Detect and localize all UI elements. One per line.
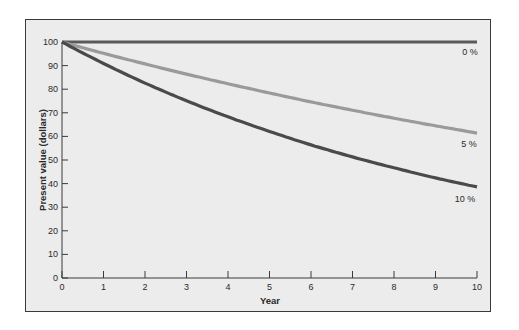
y-tick-label: 100 (43, 37, 58, 47)
series-label-0pct: 0 % (462, 47, 478, 57)
y-axis-title: Present value (dollars) (37, 109, 48, 211)
x-tick-label: 5 (267, 282, 272, 292)
x-tick-label: 4 (225, 282, 230, 292)
x-tick-label: 0 (59, 282, 64, 292)
series-line-10pct (62, 42, 477, 187)
y-tick-label: 0 (53, 273, 58, 283)
x-tick-label: 3 (184, 282, 189, 292)
series-lines (62, 42, 477, 187)
x-axis-title: Year (260, 295, 280, 306)
series-label-10pct: 10 % (455, 194, 476, 204)
x-tick-label: 9 (433, 282, 438, 292)
series-label-5pct: 5 % (461, 139, 477, 149)
y-tick-label: 80 (48, 84, 58, 94)
y-tick-label: 30 (48, 202, 58, 212)
x-tick-label: 6 (308, 282, 313, 292)
x-tick-label: 7 (350, 282, 355, 292)
y-tick-label: 90 (48, 61, 58, 71)
x-axis: 012345678910 (59, 271, 482, 292)
series-line-5pct (62, 42, 477, 133)
y-tick-label: 70 (48, 108, 58, 118)
x-tick-label: 10 (472, 282, 482, 292)
x-tick-label: 1 (101, 282, 106, 292)
y-tick-label: 20 (48, 226, 58, 236)
present-value-chart: 0102030405060708090100 012345678910 0 %5… (0, 0, 519, 330)
x-tick-label: 2 (142, 282, 147, 292)
y-tick-label: 50 (48, 155, 58, 165)
x-tick-label: 8 (391, 282, 396, 292)
y-tick-label: 60 (48, 131, 58, 141)
y-tick-label: 10 (48, 249, 58, 259)
series-labels: 0 %5 %10 % (455, 47, 478, 204)
y-tick-label: 40 (48, 179, 58, 189)
